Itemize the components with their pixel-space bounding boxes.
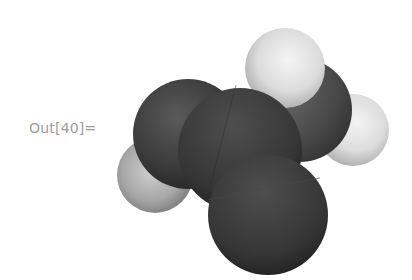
output-cell-label: Out[40]= xyxy=(29,120,96,136)
notebook-output-cell: Out[40]= xyxy=(0,0,412,280)
molecule-3d-render[interactable] xyxy=(110,0,410,280)
heavy-atom-bottom xyxy=(208,155,328,275)
molecule-graphic[interactable] xyxy=(110,0,410,280)
